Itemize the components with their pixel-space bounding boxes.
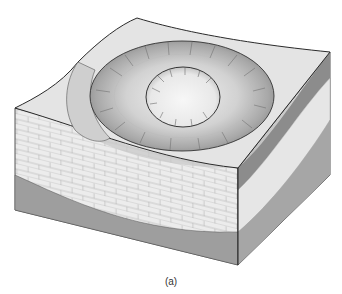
figure-caption: (a) — [0, 276, 342, 287]
crater-block-diagram — [0, 0, 342, 294]
inner-crater — [146, 67, 220, 127]
